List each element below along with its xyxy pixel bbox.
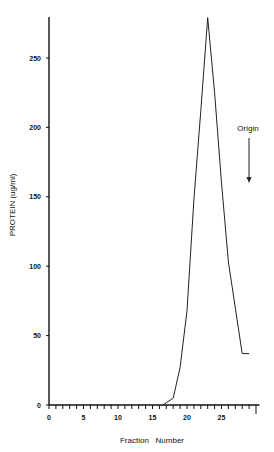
- y-tick-label: 150: [29, 193, 41, 200]
- x-tick-label: 20: [183, 414, 191, 421]
- x-axis: 0510152025: [47, 405, 259, 421]
- x-axis-title: Fraction Number: [120, 436, 184, 445]
- y-axis: 050100150200250: [29, 17, 49, 409]
- y-tick-label: 0: [37, 402, 41, 409]
- y-tick-label: 250: [29, 55, 41, 62]
- y-tick-label: 50: [33, 332, 41, 339]
- x-tick-label: 15: [149, 414, 157, 421]
- x-tick-label: 25: [218, 414, 226, 421]
- protein-elution-chart: 050100150200250 0510152025 PROTEIN (ug/m…: [0, 0, 274, 452]
- origin-label: Origin: [237, 124, 258, 133]
- x-tick-label: 10: [114, 414, 122, 421]
- x-tick-label: 0: [47, 414, 51, 421]
- y-axis-title: PROTEIN (ug/ml): [8, 173, 17, 236]
- y-tick-label: 200: [29, 124, 41, 131]
- origin-arrow-head-icon: [247, 177, 252, 183]
- origin-annotation: Origin: [237, 124, 258, 183]
- y-tick-label: 100: [29, 263, 41, 270]
- x-tick-label: 5: [82, 414, 86, 421]
- protein-series-line: [163, 18, 249, 405]
